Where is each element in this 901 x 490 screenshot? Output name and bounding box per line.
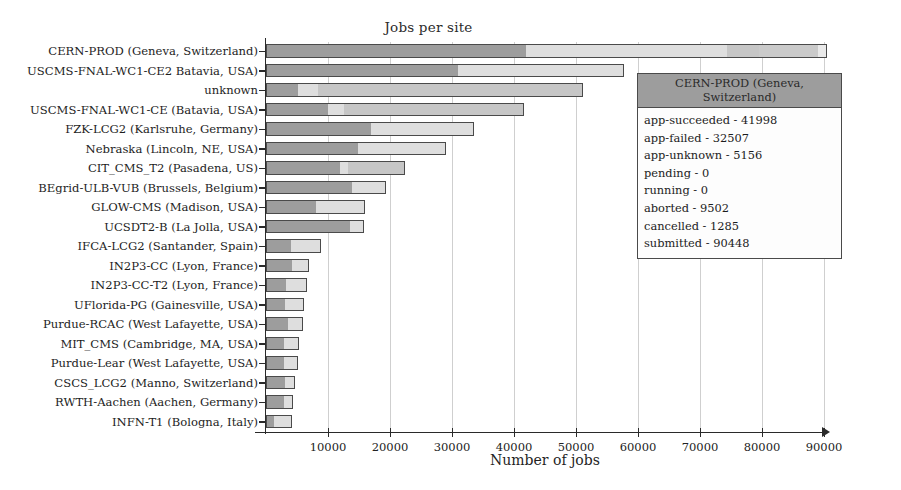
x-axis-line [255, 432, 824, 433]
bar-segment-app-failed [284, 396, 293, 408]
bar-segment-app-failed [298, 84, 318, 96]
bar-segment-app-failed [316, 201, 365, 213]
bar-segment-app-succeeded [267, 143, 358, 155]
stacked-bar[interactable] [266, 83, 583, 97]
bar-segment-app-succeeded [267, 279, 286, 291]
bar-segment-app-failed [358, 143, 445, 155]
x-tick-mark [762, 428, 763, 437]
stacked-bar[interactable] [266, 161, 405, 175]
bar-segment-app-failed [458, 65, 623, 77]
tooltip-row: aborted - 9502 [644, 200, 841, 218]
tooltip-row: app-failed - 32507 [644, 130, 841, 148]
bar-row[interactable]: Purdue-Lear (West Lafayette, USA) [266, 354, 824, 374]
y-axis-line [265, 38, 266, 434]
bar-segment-app-failed [350, 221, 363, 233]
x-tick-mark [576, 428, 577, 437]
bar-segment-app-failed [292, 260, 308, 272]
bar-segment-app-succeeded [267, 357, 284, 369]
bar-segment-app-succeeded [267, 104, 328, 116]
x-tick-mark [514, 428, 515, 437]
bar-segment-app-succeeded [267, 84, 298, 96]
y-axis-label: CIT_CMS_T2 (Pasadena, US) [88, 161, 258, 175]
bar-segment-app-succeeded [267, 260, 292, 272]
bar-segment-app-succeeded [267, 396, 284, 408]
tooltip: CERN-PROD (Geneva, Switzerland) app-succ… [637, 73, 842, 259]
x-tick-mark [390, 428, 391, 437]
bar-segment-app-failed [526, 45, 727, 57]
y-axis-label: GLOW-CMS (Madison, USA) [91, 200, 258, 214]
bar-segment-app-succeeded [267, 201, 316, 213]
bar-row[interactable]: CERN-PROD (Geneva, Switzerland) [266, 42, 824, 62]
stacked-bar[interactable] [266, 181, 386, 195]
x-tick-mark [328, 428, 329, 437]
stacked-bar[interactable] [266, 103, 524, 117]
bar-segment-app-failed [284, 357, 297, 369]
y-axis-label: USCMS-FNAL-WC1-CE2 Batavia, USA) [27, 64, 258, 78]
y-axis-label: BEgrid-ULB-VUB (Brussels, Belgium) [38, 181, 258, 195]
y-axis-label: Purdue-Lear (West Lafayette, USA) [51, 356, 258, 370]
bar-segment-app-failed [274, 416, 291, 428]
bar-row[interactable]: INFN-T1 (Bologna, Italy) [266, 413, 824, 433]
y-axis-label: unknown [204, 83, 258, 97]
stacked-bar[interactable] [266, 142, 446, 156]
bar-segment-app-succeeded [267, 377, 285, 389]
bar-segment-app-failed [284, 338, 299, 350]
bar-segment-app-failed [288, 318, 303, 330]
bar-row[interactable]: RWTH-Aachen (Aachen, Germany) [266, 393, 824, 413]
stacked-bar[interactable] [266, 278, 307, 292]
tooltip-row: pending - 0 [644, 165, 841, 183]
bar-row[interactable]: UFlorida-PG (Gainesville, USA) [266, 296, 824, 316]
y-axis-label: UCSDT2-B (La Jolla, USA) [104, 220, 258, 234]
stacked-bar[interactable] [266, 337, 299, 351]
bar-segment-app-succeeded [267, 45, 526, 57]
bar-segment-app-succeeded [267, 299, 285, 311]
stacked-bar[interactable] [266, 395, 293, 409]
x-axis-title: Number of jobs [266, 452, 824, 468]
stacked-bar[interactable] [266, 44, 827, 58]
y-axis-label: MIT_CMS (Cambridge, MA, USA) [60, 337, 258, 351]
y-axis-label: CSCS_LCG2 (Manno, Switzerland) [54, 376, 258, 390]
tooltip-row: app-unknown - 5156 [644, 147, 841, 165]
bar-segment-app-unknown [348, 162, 404, 174]
stacked-bar[interactable] [266, 259, 309, 273]
stacked-bar[interactable] [266, 376, 295, 390]
y-axis-label: IFCA-LCG2 (Santander, Spain) [78, 239, 258, 253]
bar-segment-app-failed [371, 123, 474, 135]
bar-segment-app-succeeded [267, 416, 274, 428]
bar-row[interactable]: CSCS_LCG2 (Manno, Switzerland) [266, 374, 824, 394]
bar-segment-app-failed [328, 104, 344, 116]
x-tick-mark [700, 428, 701, 437]
bar-segment-aborted [759, 45, 818, 57]
bar-segment-app-failed [285, 299, 303, 311]
y-axis-label: IN2P3-CC (Lyon, France) [109, 259, 258, 273]
bar-segment-app-failed [285, 377, 294, 389]
bar-segment-app-unknown [318, 84, 582, 96]
stacked-bar[interactable] [266, 200, 365, 214]
bar-segment-app-failed [352, 182, 385, 194]
stacked-bar[interactable] [266, 298, 304, 312]
x-tick-mark [824, 428, 825, 437]
stacked-bar[interactable] [266, 415, 292, 429]
stacked-bar[interactable] [266, 239, 321, 253]
bar-row[interactable]: MIT_CMS (Cambridge, MA, USA) [266, 335, 824, 355]
stacked-bar[interactable] [266, 220, 364, 234]
bar-row[interactable]: IN2P3-CC-T2 (Lyon, France) [266, 276, 824, 296]
bar-segment-app-succeeded [267, 182, 352, 194]
bar-segment-app-succeeded [267, 338, 284, 350]
bar-row[interactable]: IN2P3-CC (Lyon, France) [266, 257, 824, 277]
x-tick-mark [452, 428, 453, 437]
bar-row[interactable]: Purdue-RCAC (West Lafayette, USA) [266, 315, 824, 335]
bar-segment-app-failed [291, 240, 320, 252]
stacked-bar[interactable] [266, 317, 303, 331]
stacked-bar[interactable] [266, 64, 624, 78]
tooltip-row: app-succeeded - 41998 [644, 112, 841, 130]
chart-root: Jobs per site CERN-PROD (Geneva, Switzer… [0, 0, 901, 490]
stacked-bar[interactable] [266, 122, 474, 136]
bar-segment-cancelled [818, 45, 826, 57]
y-axis-label: IN2P3-CC-T2 (Lyon, France) [91, 278, 258, 292]
bar-segment-app-failed [340, 162, 348, 174]
y-axis-label: RWTH-Aachen (Aachen, Germany) [55, 395, 258, 409]
tooltip-row: running - 0 [644, 182, 841, 200]
tooltip-row: cancelled - 1285 [644, 218, 841, 236]
stacked-bar[interactable] [266, 356, 298, 370]
